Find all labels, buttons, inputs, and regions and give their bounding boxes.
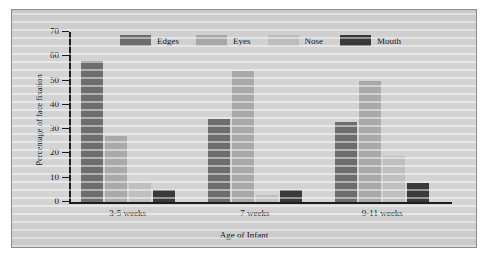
legend-item-edges: Edges — [120, 35, 179, 46]
chart-legend: EdgesEyesNoseMouth — [120, 35, 401, 46]
bar-nose-2 — [256, 195, 278, 202]
y-tick-label: 0 — [55, 197, 60, 206]
legend-item-eyes: Eyes — [196, 35, 251, 46]
bar-mouth-2 — [280, 190, 302, 202]
y-tick-label: 30 — [50, 124, 59, 133]
bar-eyes-2 — [232, 71, 254, 202]
y-tick-label: 50 — [50, 75, 59, 84]
bar-eyes-1 — [105, 136, 127, 202]
y-tick: 30 — [62, 128, 69, 129]
y-tick: 50 — [62, 80, 69, 81]
y-tick: 0 — [62, 201, 69, 202]
x-tick-label: 7 weeks — [240, 208, 269, 218]
legend-label-eyes: Eyes — [233, 36, 251, 46]
legend-item-nose: Nose — [268, 35, 324, 46]
bar-edges-2 — [208, 119, 230, 202]
chart-panel: Percentage of face fixation 010203040506… — [11, 9, 477, 248]
y-tick: 40 — [62, 104, 69, 105]
plot-area: 010203040506070 — [69, 32, 451, 202]
bar-edges-1 — [81, 61, 103, 202]
y-tick-label: 40 — [50, 99, 59, 108]
bar-mouth-3 — [407, 183, 429, 202]
bar-mouth-1 — [153, 190, 175, 202]
x-tick-label: 3-5 weeks — [109, 208, 146, 218]
bar-nose-1 — [129, 183, 151, 202]
legend-swatch-edges — [120, 35, 151, 46]
y-tick-label: 20 — [50, 148, 59, 157]
legend-swatch-nose — [268, 35, 299, 46]
bar-nose-3 — [383, 156, 405, 202]
figure-page: Percentage of face fixation 010203040506… — [0, 0, 489, 265]
legend-label-edges: Edges — [157, 36, 179, 46]
y-axis-line — [69, 32, 71, 203]
x-axis-line — [69, 202, 452, 204]
y-tick: 10 — [62, 177, 69, 178]
legend-label-mouth: Mouth — [377, 36, 401, 46]
x-tick-label: 9-11 weeks — [362, 208, 403, 218]
y-tick: 70 — [62, 31, 69, 32]
legend-swatch-mouth — [340, 35, 371, 46]
y-tick-label: 70 — [50, 27, 59, 36]
y-tick: 20 — [62, 152, 69, 153]
bar-edges-3 — [335, 122, 357, 202]
y-tick-label: 10 — [50, 172, 59, 181]
legend-label-nose: Nose — [305, 36, 324, 46]
y-tick: 60 — [62, 55, 69, 56]
legend-swatch-eyes — [196, 35, 227, 46]
bar-eyes-3 — [359, 81, 381, 202]
y-tick-label: 60 — [50, 51, 59, 60]
y-axis-title-text: Percentage of face fixation — [34, 74, 44, 165]
legend-item-mouth: Mouth — [340, 35, 401, 46]
y-axis-title: Percentage of face fixation — [32, 40, 46, 200]
x-axis-title: Age of Infant — [12, 230, 476, 240]
